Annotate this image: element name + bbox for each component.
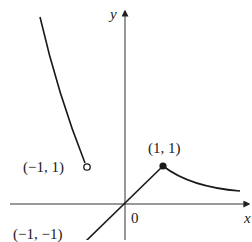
origin-label: 0 bbox=[131, 211, 139, 226]
closed-point-marker bbox=[159, 162, 166, 169]
right-branch-curve bbox=[163, 166, 240, 191]
left-branch-curve bbox=[40, 17, 85, 163]
open-point-label: (−1, 1) bbox=[23, 160, 64, 175]
bottom-point-label: (−1, −1) bbox=[13, 227, 62, 242]
open-point-marker bbox=[84, 164, 90, 170]
peak-point-label: (1, 1) bbox=[148, 141, 181, 156]
x-axis-label: x bbox=[244, 211, 251, 226]
y-axis-label: y bbox=[110, 7, 117, 22]
